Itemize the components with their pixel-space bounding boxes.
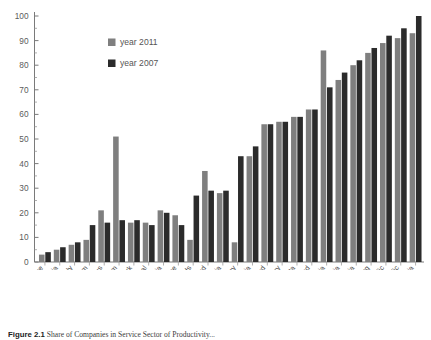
bar-germany-2011: [232, 242, 238, 262]
y-tick-label-50: 50: [19, 134, 29, 144]
bar-estonia-2011: [410, 33, 416, 262]
bar-france-2007: [45, 252, 51, 262]
y-tick-label-100: 100: [15, 11, 29, 21]
caption-text: Share of Companies in Service Sector of …: [47, 330, 215, 339]
bar-poland-2007: [312, 109, 318, 262]
bar-malta-2011: [291, 117, 297, 262]
bar-latvia-2011: [247, 156, 253, 262]
bar-portugal-2007: [149, 225, 155, 262]
bar-latvia-2007: [253, 146, 259, 262]
bar-czech-republic-2007: [401, 28, 407, 262]
bar-romania-2011: [350, 65, 356, 262]
bar-bulgaria-2007: [342, 73, 348, 262]
bar-united-kingdom-2007: [90, 225, 96, 262]
bar-slovenia-2007: [164, 213, 170, 262]
bar-cyprus-2007: [105, 223, 111, 262]
legend-swatch-0: [108, 39, 116, 47]
legend-swatch-1: [108, 60, 116, 68]
bar-belgium-2011: [113, 137, 119, 262]
bar-greece-2011: [172, 215, 178, 262]
y-tick-label-60: 60: [19, 109, 29, 119]
bar-ireland-2007: [208, 191, 214, 262]
bar-united-kingdom-2011: [83, 240, 89, 262]
y-tick-label-10: 10: [19, 232, 29, 242]
bar-luxembourg-2011: [365, 53, 371, 262]
legend-label-0: year 2011: [120, 37, 158, 47]
bar-malta-2007: [297, 117, 303, 262]
bar-cyprus-2011: [98, 210, 104, 262]
bar-estonia-2007: [416, 16, 422, 262]
bar-portugal-2011: [143, 223, 149, 262]
figure-container: 0102030405060708090100FranceEstoniaItaly…: [0, 0, 431, 340]
bar-italy-2007: [75, 242, 81, 262]
y-tick-label-40: 40: [19, 159, 29, 169]
y-tick-label-0: 0: [24, 257, 29, 267]
bar-slovenia-2011: [158, 210, 164, 262]
bar-austria-2011: [217, 193, 223, 262]
figure-caption: Figure 2.1 Share of Companies in Service…: [8, 330, 428, 339]
y-tick-label-20: 20: [19, 208, 29, 218]
x-tick-label-italy: Italy: [59, 263, 74, 270]
bar-romania-2007: [357, 60, 363, 262]
bar-estonia-2011: [54, 250, 60, 262]
bar-germany-2007: [238, 156, 244, 262]
bar-finland-2011: [261, 124, 267, 262]
caption-number: Figure 2.1: [8, 330, 45, 339]
bar-netherlands-2011: [187, 240, 193, 262]
bar-italy-2011: [69, 245, 75, 262]
bar-slovak-republic-2011: [380, 43, 386, 262]
bar-netherlands-2007: [194, 196, 200, 262]
bar-estonia-2007: [60, 247, 66, 262]
bar-hungary-2011: [276, 122, 282, 262]
bar-bulgaria-2011: [336, 80, 342, 262]
bar-finland-2007: [268, 124, 274, 262]
bar-czech-republic-2011: [395, 38, 401, 262]
bar-greece-2007: [179, 225, 185, 262]
y-tick-label-90: 90: [19, 36, 29, 46]
bar-austria-2007: [223, 191, 229, 262]
bar-chart: 0102030405060708090100FranceEstoniaItaly…: [0, 0, 431, 270]
bar-poland-2011: [306, 109, 312, 262]
bar-luxembourg-2007: [371, 48, 377, 262]
bar-denmark-2007: [134, 220, 140, 262]
bar-hungary-2007: [283, 122, 289, 262]
bar-ireland-2011: [202, 171, 208, 262]
y-tick-label-70: 70: [19, 85, 29, 95]
bar-denmark-2011: [128, 223, 134, 262]
bar-france-2011: [39, 255, 45, 262]
bar-lithuania-2007: [327, 87, 333, 262]
bar-slovak-republic-2007: [386, 36, 392, 262]
chart-plot-area: 0102030405060708090100FranceEstoniaItaly…: [0, 0, 431, 270]
bar-belgium-2007: [119, 220, 125, 262]
bars-group: [39, 16, 422, 262]
y-tick-label-30: 30: [19, 183, 29, 193]
y-tick-label-80: 80: [19, 60, 29, 70]
bar-lithuania-2011: [321, 50, 327, 262]
legend-label-1: year 2007: [120, 58, 158, 68]
